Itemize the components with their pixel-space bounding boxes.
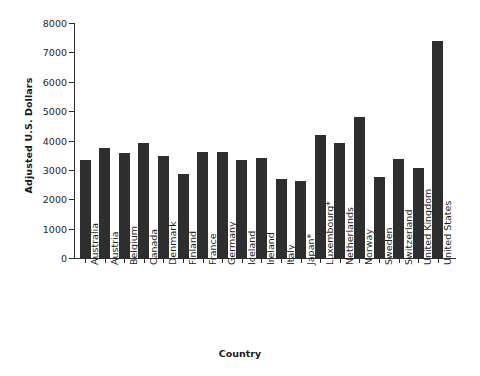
x-axis-tick bbox=[359, 258, 360, 263]
x-axis-tick bbox=[418, 258, 419, 263]
y-axis-tick-label: 7000 bbox=[43, 47, 67, 58]
x-axis-category-label: Iceland bbox=[246, 231, 257, 265]
x-axis-category-label: Ireland bbox=[265, 232, 276, 265]
x-axis-tick bbox=[379, 258, 380, 263]
y-axis-tick bbox=[69, 111, 74, 112]
x-axis-category-label: Austria bbox=[109, 231, 120, 265]
x-axis-category-label: Norway bbox=[363, 229, 374, 265]
x-axis-category-label: United States bbox=[442, 201, 453, 265]
y-axis-tick bbox=[69, 141, 74, 142]
x-axis-category-label: Germany bbox=[226, 221, 237, 265]
x-axis-tick bbox=[183, 258, 184, 263]
x-axis-tick bbox=[340, 258, 341, 263]
x-axis-tick bbox=[320, 258, 321, 263]
y-axis-tick-label: 5000 bbox=[43, 106, 67, 117]
x-axis-category-label: Japan* bbox=[305, 234, 316, 265]
x-axis-tick bbox=[203, 258, 204, 263]
x-axis-category-label: Luxembourg* bbox=[324, 201, 335, 265]
x-axis-tick bbox=[222, 258, 223, 263]
y-axis-tick-label: 4000 bbox=[43, 135, 67, 146]
x-axis-tick bbox=[242, 258, 243, 263]
y-axis-tick-label: 1000 bbox=[43, 223, 67, 234]
x-axis-category-label: Canada bbox=[148, 229, 159, 265]
y-axis-tick bbox=[69, 23, 74, 24]
y-axis-tick bbox=[69, 199, 74, 200]
x-axis-tick bbox=[144, 258, 145, 263]
x-axis-category-label: Netherlands bbox=[344, 207, 355, 265]
x-axis-tick bbox=[438, 258, 439, 263]
x-axis-tick bbox=[399, 258, 400, 263]
x-axis-tick bbox=[85, 258, 86, 263]
bar-chart-figure: Adjusted U.S. Dollars 010002000300040005… bbox=[0, 0, 480, 376]
x-axis-category-label: Italy bbox=[285, 244, 296, 265]
y-axis-tick bbox=[69, 82, 74, 83]
y-axis-tick bbox=[69, 229, 74, 230]
y-axis-tick-label: 2000 bbox=[43, 194, 67, 205]
x-axis-category-label: Switzerland bbox=[403, 210, 414, 265]
y-axis-line bbox=[74, 23, 75, 258]
y-axis-tick-label: 8000 bbox=[43, 18, 67, 29]
x-axis-tick bbox=[261, 258, 262, 263]
y-axis-title: Adjusted U.S. Dollars bbox=[23, 56, 34, 216]
y-axis-tick-label: 3000 bbox=[43, 164, 67, 175]
x-axis-tick bbox=[301, 258, 302, 263]
x-axis-tick bbox=[124, 258, 125, 263]
y-axis-tick bbox=[69, 170, 74, 171]
plot-area: 010002000300040005000600070008000 bbox=[74, 23, 456, 258]
x-axis-category-label: France bbox=[207, 233, 218, 265]
y-axis-tick bbox=[69, 258, 74, 259]
y-axis-tick-label: 6000 bbox=[43, 76, 67, 87]
x-axis-tick bbox=[281, 258, 282, 263]
x-axis-category-label: Finland bbox=[187, 231, 198, 265]
x-axis-title: Country bbox=[0, 348, 480, 359]
x-axis-category-label: Australia bbox=[89, 223, 100, 265]
x-axis-category-label: Belgium bbox=[128, 226, 139, 265]
y-axis-tick bbox=[69, 52, 74, 53]
x-axis-category-label: Denmark bbox=[167, 221, 178, 265]
x-axis-tick bbox=[163, 258, 164, 263]
x-axis-tick bbox=[105, 258, 106, 263]
y-axis-tick-label: 0 bbox=[61, 253, 67, 264]
x-axis-category-label: United Kingdom bbox=[422, 189, 433, 265]
x-axis-category-label: Sweden bbox=[383, 227, 394, 265]
